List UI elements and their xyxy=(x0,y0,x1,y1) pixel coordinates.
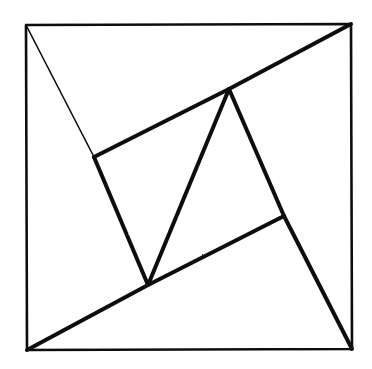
geometric-figure-canvas xyxy=(0,0,372,369)
cevian-top-left-thin xyxy=(26,25,94,157)
inner-square-left-edge xyxy=(94,157,148,285)
inner-square-top-edge xyxy=(94,89,229,157)
cevian-bottomleft-to-topright-thick xyxy=(27,24,351,350)
figure-svg xyxy=(0,0,372,369)
inner-square-right-edge xyxy=(229,89,284,216)
cevian-right-vertex-to-bottom-right-thick xyxy=(284,216,352,349)
inner-square-bottom-edge xyxy=(148,216,284,285)
